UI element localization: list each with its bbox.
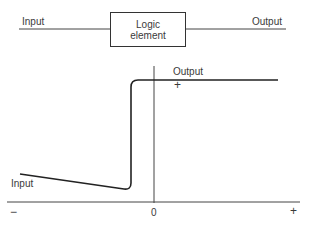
x-tick-positive: +: [290, 206, 297, 217]
transfer-curve: [20, 80, 278, 189]
x-tick-zero: 0: [151, 207, 157, 218]
graph-input-label: Input: [11, 178, 33, 189]
input-label: Input: [22, 16, 44, 27]
output-label: Output: [252, 16, 282, 27]
plus-marker: +: [174, 80, 181, 91]
logic-element-box: Logic element: [110, 12, 186, 47]
logic-element-label-line2: element: [130, 30, 166, 41]
graph-output-label: Output: [173, 66, 203, 77]
logic-element-label-line1: Logic: [136, 19, 160, 30]
x-tick-negative: −: [10, 207, 17, 218]
